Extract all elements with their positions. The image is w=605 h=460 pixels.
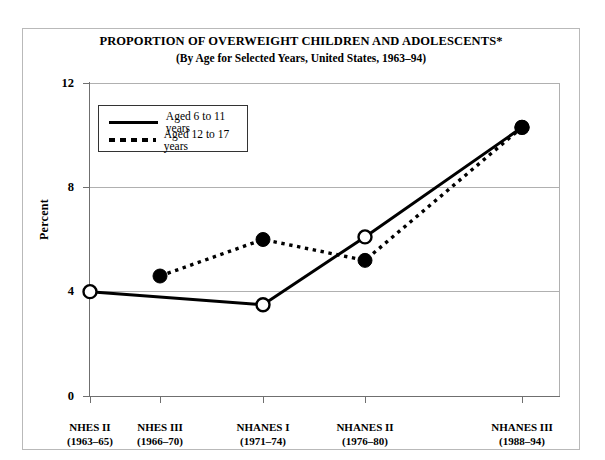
chart-legend: Aged 6 to 11 years Aged 12 to 17 years	[98, 105, 248, 152]
legend-swatch-solid-line	[109, 121, 158, 124]
data-point-marker	[257, 298, 270, 311]
data-point-marker	[84, 285, 97, 298]
data-point-marker	[358, 253, 372, 267]
legend-swatch-dotted-line	[109, 138, 156, 142]
legend-item-0: Aged 6 to 11 years	[109, 115, 247, 129]
chart-series-layer	[0, 0, 605, 460]
legend-label-1: Aged 12 to 17 years	[164, 128, 247, 152]
data-point-marker	[153, 269, 167, 283]
legend-item-1: Aged 12 to 17 years	[109, 133, 247, 147]
data-point-marker	[256, 233, 270, 247]
data-point-marker	[359, 230, 372, 243]
data-point-marker	[515, 120, 529, 134]
